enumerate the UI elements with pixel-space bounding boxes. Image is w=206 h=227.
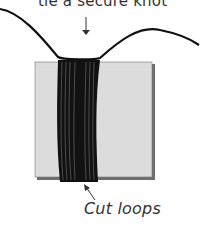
yarn-card-diagram: [0, 0, 206, 227]
down-arrow-icon: [82, 17, 90, 35]
yarn-tail: [0, 9, 199, 59]
yarn-wraps: [57, 60, 100, 182]
up-arrow-icon: [84, 184, 95, 200]
cut-loops-label: Cut loops: [84, 199, 161, 218]
